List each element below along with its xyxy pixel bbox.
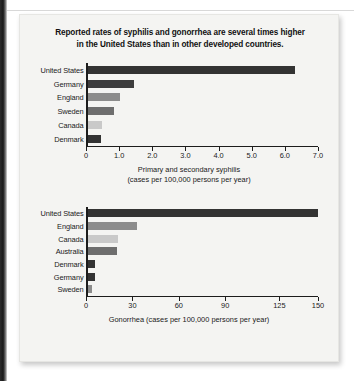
bar-category-label: Sweden	[57, 285, 83, 294]
x-axis-caption-gonorrhea: Gonorrhea (cases per 100,000 persons per…	[60, 315, 318, 325]
bar-category-label: Germany	[54, 272, 84, 281]
bar-category-label: Australia	[56, 247, 84, 256]
x-axis-tick-label: 7.0	[313, 151, 323, 160]
x-axis-tick	[318, 297, 319, 301]
figure-page: Reported rates of syphilis and gonorrhea…	[0, 0, 354, 381]
bar	[88, 260, 96, 268]
figure-title-line-2: in the United States than in other devel…	[77, 40, 284, 49]
bar-row: Germany	[88, 80, 319, 88]
bar-row: Germany	[88, 273, 319, 281]
x-axis-tick	[225, 297, 226, 301]
x-axis-tick-label: 6.0	[280, 151, 290, 160]
x-axis-caption-syphilis: Primary and secondary syphilis (cases pe…	[60, 165, 318, 185]
x-axis-tick	[119, 147, 120, 151]
x-axis-tick-label: 4.0	[213, 151, 223, 160]
bar-category-label: Canada	[58, 234, 83, 243]
bar-row: United States	[88, 66, 319, 74]
bar	[88, 107, 114, 115]
x-axis-tick-label: 3.0	[180, 151, 190, 160]
bar-row: Canada	[88, 121, 319, 129]
bar	[88, 80, 134, 88]
x-axis-tick	[185, 147, 186, 151]
bar-category-label: Germany	[54, 79, 84, 88]
x-axis-tick-label: 1.0	[114, 151, 124, 160]
chart-gonorrhea: United StatesEnglandCanadaAustraliaDenma…	[20, 201, 340, 361]
x-axis-tick-label: 0	[84, 151, 88, 160]
x-axis-tick	[252, 147, 253, 151]
bar	[88, 93, 121, 101]
x-axis-tick-label: 90	[221, 301, 229, 310]
x-axis-tick-label: 5.0	[247, 151, 257, 160]
x-axis-caption-syphilis-line-2: (cases per 100,000 persons per year)	[127, 175, 250, 184]
bar-row: Sweden	[88, 285, 319, 293]
bar-row: England	[88, 222, 319, 230]
bar-group-syphilis: United StatesGermanyEnglandSwedenCanadaD…	[88, 63, 319, 146]
bar	[88, 235, 119, 243]
bar-category-label: Denmark	[54, 134, 83, 143]
bar-category-label: United States	[40, 209, 83, 218]
bar-category-label: England	[57, 221, 83, 230]
bar-row: Canada	[88, 235, 319, 243]
x-axis-tick-label: 60	[175, 301, 183, 310]
x-axis-tick	[318, 147, 319, 151]
scan-edge-top	[7, 0, 354, 11]
x-axis-tick	[132, 297, 133, 301]
x-axis-tick	[285, 147, 286, 151]
x-axis-tick-label: 0	[84, 301, 88, 310]
bar	[88, 209, 319, 217]
bar-category-label: Canada	[58, 120, 83, 129]
x-axis-tick	[219, 147, 220, 151]
x-axis-tick-label: 150	[312, 301, 324, 310]
x-axis-tick-label: 125	[273, 301, 285, 310]
bar-row: Denmark	[88, 260, 319, 268]
x-axis-tick	[279, 297, 280, 301]
bar-category-label: England	[57, 93, 83, 102]
bar	[88, 285, 93, 293]
bar-group-gonorrhea: United StatesEnglandCanadaAustraliaDenma…	[88, 207, 319, 296]
bar-row: England	[88, 93, 319, 101]
x-axis-tick	[152, 147, 153, 151]
bar	[88, 222, 137, 230]
bar	[88, 273, 96, 281]
scan-edge-left	[0, 0, 7, 381]
bar-row: Sweden	[88, 107, 319, 115]
x-axis-tick	[179, 297, 180, 301]
bar-row: Denmark	[88, 135, 319, 143]
bar	[88, 247, 117, 255]
figure-title-line-1: Reported rates of syphilis and gonorrhea…	[55, 28, 305, 37]
x-axis-caption-syphilis-line-1: Primary and secondary syphilis	[138, 165, 240, 174]
chart-syphilis: United StatesGermanyEnglandSwedenCanadaD…	[20, 57, 340, 202]
x-axis-tick-label: 30	[128, 301, 136, 310]
bar	[88, 121, 103, 129]
x-axis-tick	[86, 147, 87, 151]
x-axis-tick	[86, 297, 87, 301]
plot-area-gonorrhea: United StatesEnglandCanadaAustraliaDenma…	[86, 207, 318, 297]
x-axis-ticks-syphilis: 01.02.03.04.05.06.07.0	[86, 147, 318, 163]
plot-area-syphilis: United StatesGermanyEnglandSwedenCanadaD…	[86, 63, 318, 147]
bar	[88, 66, 295, 74]
bar-category-label: Sweden	[57, 107, 83, 116]
bar-category-label: Denmark	[54, 259, 83, 268]
x-axis-tick-label: 2.0	[147, 151, 157, 160]
bar-row: Australia	[88, 247, 319, 255]
x-axis-ticks-gonorrhea: 0306090125150	[86, 297, 318, 313]
figure-card: Reported rates of syphilis and gonorrhea…	[19, 14, 339, 362]
x-axis-caption-gonorrhea-line-1: Gonorrhea (cases per 100,000 persons per…	[109, 315, 270, 324]
bar	[88, 135, 101, 143]
bar-category-label: United States	[40, 65, 83, 74]
figure-title: Reported rates of syphilis and gonorrhea…	[34, 27, 326, 50]
bar-row: United States	[88, 209, 319, 217]
